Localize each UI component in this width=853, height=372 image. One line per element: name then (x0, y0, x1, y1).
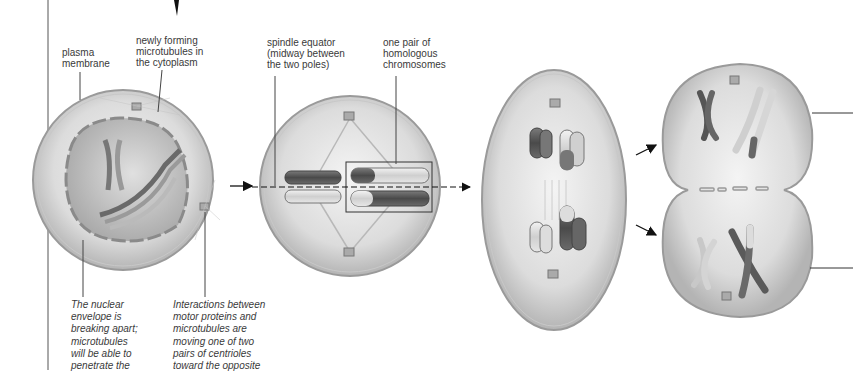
top-arrow-icon (174, 0, 179, 16)
stage-anaphase-I (482, 70, 626, 330)
label-newly-forming-microtubules: newly forming microtubules in the cytopl… (136, 35, 203, 68)
stage-telophase-I (663, 64, 813, 317)
stage-metaphase-I (260, 96, 440, 276)
stage-prophase-I (33, 90, 220, 270)
stage-arrow (636, 225, 656, 235)
stage-arrow (636, 145, 656, 155)
label-homologous-pair: one pair of homologous chromosomes (383, 37, 446, 70)
caption-nuclear-envelope: The nuclear envelope is breaking apart; … (71, 299, 138, 372)
caption-motor-proteins: Interactions between motor proteins and … (173, 299, 265, 372)
label-spindle-equator: spindle equator (midway between the two … (267, 37, 345, 70)
label-plasma-membrane: plasma membrane (62, 47, 110, 69)
